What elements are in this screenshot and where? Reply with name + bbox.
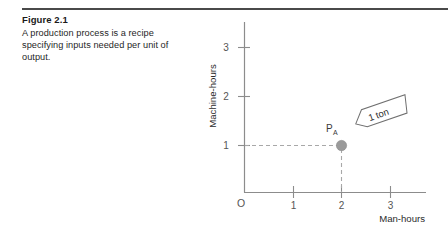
x-tick-label-1: 1 bbox=[291, 200, 297, 211]
x-axis-title: Man-hours bbox=[379, 213, 425, 224]
caption-line-2: specifying inputs needed per unit of bbox=[22, 39, 202, 51]
point-label-subscript-a: A bbox=[333, 129, 338, 136]
y-tick-label-3: 3 bbox=[223, 42, 229, 53]
origin-label: O bbox=[237, 197, 245, 209]
x-tick-label-3: 3 bbox=[388, 200, 394, 211]
point-label-p: P bbox=[326, 123, 333, 134]
figure-panel: Figure 2.1 A production process is a rec… bbox=[0, 0, 448, 233]
figure-caption: Figure 2.1 A production process is a rec… bbox=[22, 14, 202, 64]
annotation-tag-1-ton: 1 ton bbox=[352, 95, 411, 130]
y-tick-label-2: 2 bbox=[223, 91, 229, 102]
production-process-chart: P A 1 ton 3 2 1 1 2 3 O Machine-hours Ma… bbox=[200, 0, 448, 233]
figure-caption-body: A production process is a recipe specify… bbox=[22, 27, 202, 64]
data-point-pa bbox=[336, 140, 346, 150]
y-tick-label-1: 1 bbox=[223, 140, 229, 151]
figure-title: Figure 2.1 bbox=[22, 14, 202, 26]
x-tick-label-2: 2 bbox=[339, 200, 345, 211]
caption-line-1: A production process is a recipe bbox=[22, 27, 202, 39]
caption-line-3: output. bbox=[22, 51, 202, 63]
y-axis-title: Machine-hours bbox=[207, 64, 218, 128]
